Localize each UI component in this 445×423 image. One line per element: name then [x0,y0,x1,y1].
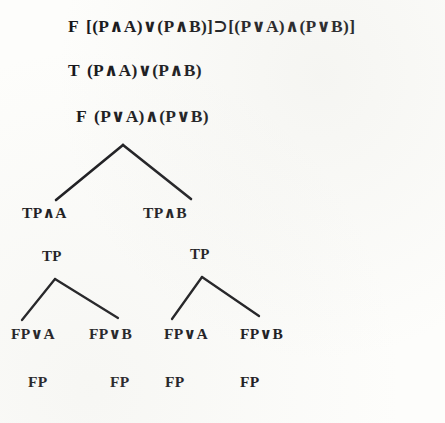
formula-line-3: F(P∨A)∧(P∨B) [76,108,209,126]
branch-root-left [56,145,123,200]
branch-root-right [123,145,191,199]
node-fp-2: FP [110,374,130,390]
formula-body: (P∨A)∧(P∨B) [94,106,209,126]
node-fpa-2: FP∨A [164,326,208,342]
formula-body: (P∧A)∨(P∧B) [87,60,202,80]
formula-sign: F [76,106,87,126]
formula-sign: F [68,16,79,36]
formula-line-1: F[(P∧A)∨(P∧B)]⊃[(P∨A)∧(P∨B)] [68,18,355,36]
node-fpa-1: FP∨A [11,326,55,342]
node-fp-3: FP [165,374,185,390]
branch-right-right [202,277,259,316]
branch-right-left [172,277,202,319]
node-fpb-2: FP∨B [240,326,283,342]
node-fp-4: FP [240,374,260,390]
formula-body: [(P∧A)∨(P∧B)]⊃[(P∨A)∧(P∨B)] [86,16,355,36]
node-tpb: TP∧B [143,205,187,221]
branch-left-left [22,279,55,320]
node-fpb-1: FP∨B [89,326,132,342]
node-tp-1: TP [42,249,62,264]
proof-tree-page: F[(P∧A)∨(P∧B)]⊃[(P∨A)∧(P∨B)]T(P∧A)∨(P∧B)… [0,0,445,423]
branch-left-right [55,279,118,318]
node-fp-1: FP [28,374,48,390]
node-tpa: TP∧A [22,205,67,221]
formula-sign: T [68,60,80,80]
formula-line-2: T(P∧A)∨(P∧B) [68,62,202,80]
node-tp-2: TP [190,247,210,262]
